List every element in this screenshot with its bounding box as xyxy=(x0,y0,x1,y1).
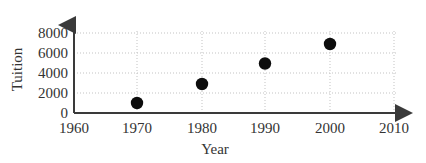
x-tick-label-1960: 1960 xyxy=(44,121,104,136)
x-tick-label-2000: 2000 xyxy=(300,121,360,136)
y-axis-title: Tuition xyxy=(10,40,25,100)
data-point-1990 xyxy=(259,57,271,69)
y-tick-label-0: 0 xyxy=(20,106,68,121)
y-tick-label-2000: 2000 xyxy=(20,86,68,101)
y-tick-label-8000: 8000 xyxy=(20,26,68,41)
x-tick-label-1970: 1970 xyxy=(107,121,167,136)
x-axis-title: Year xyxy=(180,142,250,157)
data-point-1970 xyxy=(131,97,143,109)
vertical-gridlines xyxy=(137,31,394,113)
horizontal-gridlines xyxy=(74,33,398,93)
data-point-2000 xyxy=(324,38,336,50)
y-tick-label-4000: 4000 xyxy=(20,66,68,81)
x-tick-label-1990: 1990 xyxy=(235,121,295,136)
x-tick-label-2010: 2010 xyxy=(364,121,424,136)
tuition-vs-year-scatter-plot: 8000 6000 4000 2000 0 1960 1970 1980 199… xyxy=(0,0,426,163)
data-point-1980 xyxy=(196,78,208,90)
x-tick-label-1980: 1980 xyxy=(172,121,232,136)
y-tick-label-6000: 6000 xyxy=(20,46,68,61)
